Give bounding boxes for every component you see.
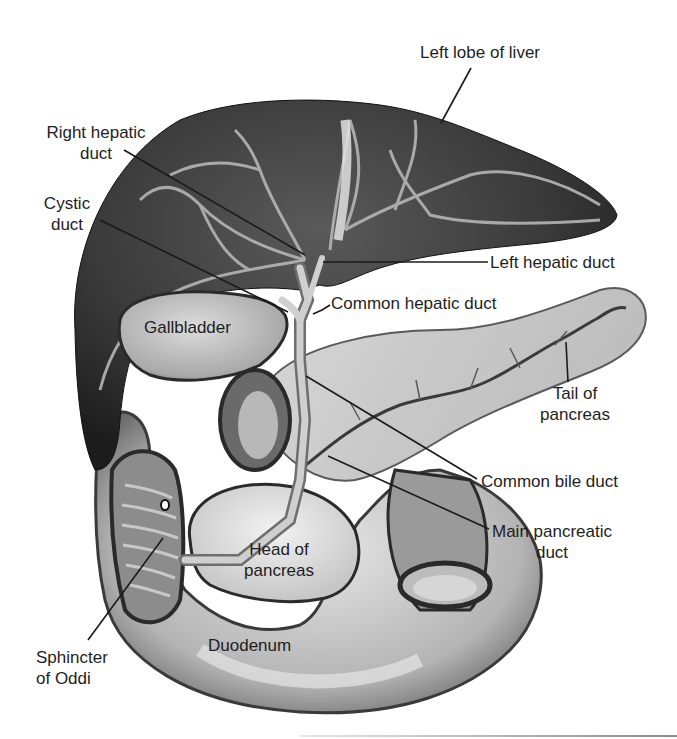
label-main-pancreatic-duct-line2: duct <box>492 542 612 563</box>
label-common-bile-duct: Common bile duct <box>481 471 618 492</box>
label-sphincter-of-oddi-line1: Sphincter <box>36 647 108 668</box>
label-right-hepatic-duct-line2: duct <box>32 143 160 164</box>
label-main-pancreatic-duct: Main pancreatic duct <box>492 521 612 563</box>
leader-left-lobe <box>441 68 471 123</box>
label-tail-of-pancreas-line2: pancreas <box>540 404 610 425</box>
label-cystic-duct-line2: duct <box>36 214 98 235</box>
label-common-hepatic-duct: Common hepatic duct <box>331 293 496 314</box>
bottom-divider <box>300 735 677 737</box>
label-cystic-duct: Cystic duct <box>36 193 98 235</box>
label-tail-of-pancreas-line1: Tail of <box>540 383 610 404</box>
label-left-lobe-of-liver: Left lobe of liver <box>420 42 540 63</box>
label-tail-of-pancreas: Tail of pancreas <box>540 383 610 425</box>
label-main-pancreatic-duct-line1: Main pancreatic <box>492 521 612 542</box>
anatomy-diagram: Left lobe of liver Right hepatic duct Cy… <box>0 0 677 739</box>
label-duodenum: Duodenum <box>208 635 291 656</box>
label-sphincter-of-oddi: Sphincter of Oddi <box>36 647 108 689</box>
label-head-of-pancreas: Head of pancreas <box>234 539 324 581</box>
label-head-of-pancreas-line2: pancreas <box>234 560 324 581</box>
label-gallbladder: Gallbladder <box>144 317 231 338</box>
vessel-cross-section <box>220 370 290 470</box>
anatomy-illustration <box>0 0 677 739</box>
leader-common-hepatic-duct <box>313 305 330 314</box>
label-cystic-duct-line1: Cystic <box>36 193 98 214</box>
label-head-of-pancreas-line1: Head of <box>234 539 324 560</box>
label-right-hepatic-duct: Right hepatic duct <box>32 122 160 164</box>
label-right-hepatic-duct-line1: Right hepatic <box>32 122 160 143</box>
label-sphincter-of-oddi-line2: of Oddi <box>36 668 108 689</box>
label-left-hepatic-duct: Left hepatic duct <box>490 252 615 273</box>
